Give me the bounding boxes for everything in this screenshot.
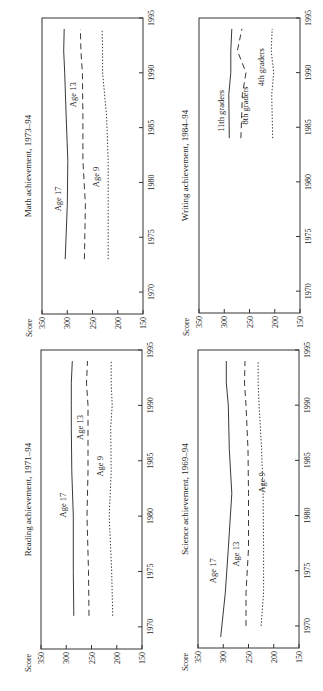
y-tick-label: 350: [37, 652, 46, 664]
x-tick-label: 1975: [147, 229, 156, 245]
y-tick-label: 200: [113, 652, 122, 664]
chart-title: Science achievement, 1969–94: [180, 443, 190, 555]
x-tick-label: 1985: [146, 453, 155, 469]
y-tick-label: 300: [219, 651, 228, 663]
series-line-age-13: [87, 361, 90, 616]
series-label-8th-graders: 8th graders: [240, 86, 250, 124]
y-tick-label: 150: [139, 317, 148, 329]
x-tick-label: 1980: [304, 174, 313, 190]
series-line-11th-graders: [229, 29, 232, 138]
series-label-age-9: Age 9: [91, 167, 101, 188]
series-line-age-13: [80, 29, 85, 259]
series-label-age-9: Age 9: [95, 456, 105, 477]
y-axis-label: Score: [25, 318, 34, 337]
panel-reading-achievement: Reading achievement, 1971–94Score3503002…: [23, 342, 155, 672]
x-tick-label: 1980: [146, 508, 155, 524]
chart-title: Math achievement, 1973–94: [23, 114, 33, 217]
y-tick-label: 350: [195, 316, 204, 328]
y-tick-label: 150: [138, 652, 147, 664]
y-tick-label: 250: [245, 651, 254, 663]
series-label-age-13: Age 13: [231, 542, 241, 567]
x-tick-label: 1995: [304, 10, 313, 26]
y-tick-label: 250: [246, 316, 255, 328]
y-tick-label: 200: [114, 317, 123, 329]
y-tick-label: 200: [271, 316, 280, 328]
x-tick-label: 1975: [303, 563, 312, 579]
panel-writing-achievement: Writing achievement, 1984–94Score3503002…: [180, 10, 313, 336]
figure-four-panel-achievement-charts: Math achievement, 1973–94Score3503002502…: [0, 0, 323, 691]
x-tick-label: 1990: [304, 65, 313, 81]
y-axis-label: Score: [181, 652, 190, 671]
chart-title: Writing achievement, 1984–94: [180, 109, 190, 221]
x-tick-label: 1980: [303, 508, 312, 524]
plot-frame: [42, 18, 143, 314]
y-tick-label: 300: [220, 316, 229, 328]
plot-frame: [41, 350, 142, 649]
x-tick-label: 1995: [303, 342, 312, 358]
plot-frame: [198, 350, 299, 648]
series-line-age-17: [221, 361, 232, 637]
x-tick-label: 1990: [303, 397, 312, 413]
series-line-age-17: [71, 361, 74, 616]
series-label-age-17: Age 17: [208, 558, 218, 583]
y-tick-label: 300: [62, 652, 71, 664]
series-line-4th-graders: [271, 29, 274, 138]
x-tick-label: 1995: [147, 10, 156, 26]
series-line-age-9: [102, 29, 108, 259]
y-tick-label: 250: [88, 652, 97, 664]
series-label-age-9: Age 9: [257, 472, 267, 493]
x-tick-label: 1975: [146, 563, 155, 579]
x-tick-label: 1975: [304, 229, 313, 245]
series-line-age-9: [109, 361, 113, 616]
panel-math-achievement: Math achievement, 1973–94Score3503002502…: [23, 10, 156, 337]
y-tick-label: 200: [270, 651, 279, 663]
x-tick-label: 1995: [146, 342, 155, 358]
series-label-11th-graders: 11th graders: [216, 90, 226, 132]
x-tick-label: 1970: [147, 284, 156, 300]
y-tick-label: 150: [295, 651, 304, 663]
x-tick-label: 1985: [147, 120, 156, 136]
y-tick-label: 150: [296, 316, 305, 328]
series-line-age-17: [64, 29, 68, 259]
y-tick-label: 250: [89, 317, 98, 329]
plot-frame: [199, 18, 300, 313]
series-label-age-13: Age 13: [68, 82, 78, 107]
series-label-age-13: Age 13: [75, 415, 85, 440]
panel-science-achievement: Science achievement, 1969–94Score3503002…: [180, 342, 312, 671]
x-tick-label: 1985: [303, 452, 312, 468]
x-tick-label: 1980: [147, 174, 156, 190]
x-tick-label: 1970: [304, 283, 313, 299]
y-axis-label: Score: [182, 317, 191, 336]
x-tick-label: 1990: [147, 65, 156, 81]
series-label-4th-graders: 4th graders: [256, 48, 266, 86]
y-tick-label: 350: [38, 317, 47, 329]
x-tick-label: 1990: [146, 397, 155, 413]
x-tick-label: 1970: [303, 618, 312, 634]
chart-title: Reading achievement, 1971–94: [23, 442, 33, 556]
series-label-age-17: Age 17: [58, 493, 68, 518]
y-tick-label: 350: [194, 651, 203, 663]
x-tick-label: 1970: [146, 619, 155, 635]
series-line-age-13: [245, 361, 249, 626]
y-axis-label: Score: [24, 653, 33, 672]
series-label-age-17: Age 17: [53, 186, 63, 211]
x-tick-label: 1985: [304, 119, 313, 135]
y-tick-label: 300: [63, 317, 72, 329]
